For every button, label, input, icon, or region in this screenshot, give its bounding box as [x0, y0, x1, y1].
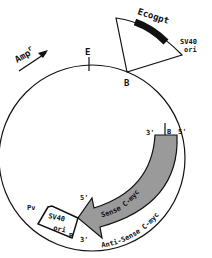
- site-b-top-label: B: [124, 78, 130, 88]
- site-pv-label: Pv: [27, 204, 35, 212]
- sv40-ori-top-line2: ori: [184, 46, 197, 54]
- plasmid-diagram: E Ampr Ecogpt SV40 ori B 3' B 5' Sense C…: [0, 0, 212, 258]
- ecogpt-insert: [116, 18, 182, 72]
- ecogpt-gene-block: [135, 22, 166, 42]
- three-prime-right: 3': [146, 129, 154, 137]
- site-b-bottom-label: B: [69, 232, 73, 240]
- site-e-label: E: [85, 47, 90, 57]
- sv40-ori-bottom-line2: ori: [53, 224, 67, 234]
- five-prime-left: 5': [80, 194, 88, 202]
- three-prime-left: 3': [80, 236, 88, 244]
- c-myc-insert-arrow: [78, 135, 177, 238]
- sv40-ori-top-line1: SV40: [180, 38, 197, 46]
- five-prime-right: 5': [178, 128, 186, 136]
- site-b-right-label: B: [167, 128, 171, 136]
